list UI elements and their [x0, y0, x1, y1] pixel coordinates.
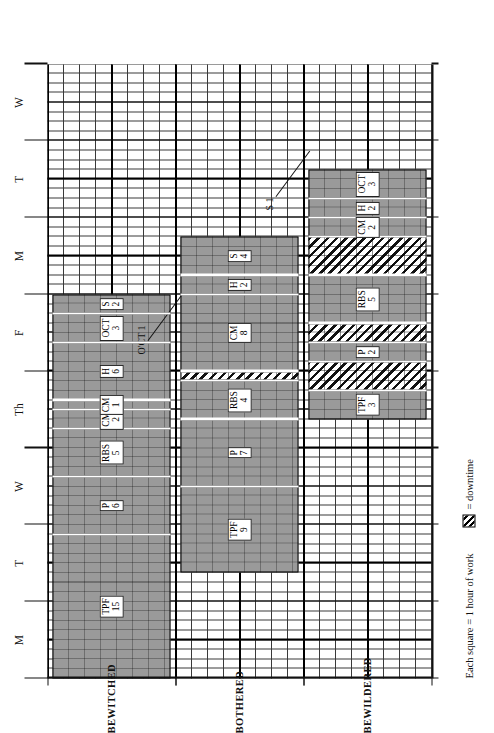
y-tick [47, 678, 48, 685]
legend: Each square = 1 hour of work = downtime [462, 459, 475, 678]
legend-square-text: Each square = 1 hour of work [463, 553, 474, 678]
task-code: P [101, 503, 111, 508]
task-separator [180, 369, 298, 371]
task-code: CM [101, 397, 111, 412]
task-separator [180, 417, 298, 419]
task-code: H [357, 204, 367, 211]
y-tick [303, 678, 304, 685]
task-label-chip: CM8 [227, 322, 251, 343]
load-chart: TPF15P6RBS5CM2CM1H6OCT3S2TPF9P7RBS4CM8H2… [0, 0, 494, 733]
task-label-chip: S2 [99, 298, 123, 309]
task-hours: 2 [239, 281, 249, 288]
task-label-chip: TPF3 [355, 393, 379, 415]
day-divider [24, 600, 47, 601]
x-tick [431, 370, 438, 371]
task-separator [52, 312, 170, 314]
y-tick [431, 678, 432, 685]
task-code: S [229, 253, 239, 258]
task-separator [52, 475, 170, 477]
day-divider [24, 523, 47, 524]
task-separator [308, 360, 426, 362]
day-divider [24, 139, 47, 140]
x-tick [431, 600, 438, 601]
row-label-bothered: BOTHERED [234, 681, 245, 733]
legend-downtime-text: = downtime [463, 459, 474, 510]
task-separator [308, 321, 426, 323]
task-separator [52, 341, 170, 343]
day-divider [24, 370, 47, 371]
task-separator [180, 273, 298, 275]
task-label-chip: RBS4 [227, 388, 251, 412]
task-code: RBS [101, 443, 111, 461]
task-label-chip: CM2 [355, 216, 379, 237]
downtime-block [308, 236, 426, 274]
task-code: P [229, 450, 239, 455]
task-code: TPF [229, 521, 239, 537]
task-hours: 3 [367, 174, 377, 193]
day-divider [24, 677, 47, 678]
task-label-chip: TPF15 [99, 595, 123, 617]
x-tick [431, 293, 438, 294]
day-label: W [12, 481, 24, 492]
task-code: S [101, 301, 111, 306]
task-label-chip: OCT3 [99, 315, 123, 340]
x-tick [431, 446, 438, 447]
task-separator [308, 273, 426, 275]
task-label-chip: P2 [355, 346, 379, 357]
task-hours: 3 [367, 396, 377, 412]
x-tick [431, 139, 438, 140]
hatch-swatch-icon [462, 514, 475, 527]
annotation-label: O'CT 1 [135, 325, 146, 354]
row-label-bewitched: BEWITCHED [106, 681, 117, 733]
task-separator [180, 485, 298, 487]
task-code: OCT [357, 174, 367, 193]
task-hours: 1 [111, 397, 121, 412]
task-label-chip: P7 [227, 447, 251, 458]
legend-downtime: = downtime [462, 459, 475, 528]
task-label-chip: TPF9 [227, 518, 251, 540]
task-label-chip: H2 [227, 278, 251, 291]
annotation-label: S 1 [263, 197, 274, 210]
task-hours: 5 [367, 290, 377, 308]
legend-square-note: Each square = 1 hour of work [463, 553, 474, 678]
plot-area: TPF15P6RBS5CM2CM1H6OCT3S2TPF9P7RBS4CM8H2… [47, 64, 431, 678]
task-label-chip: RBS5 [99, 440, 123, 464]
task-code: H [101, 367, 111, 374]
task-hours: 8 [239, 325, 249, 340]
downtime-block [308, 323, 426, 342]
task-hours: 6 [111, 503, 121, 508]
task-separator [308, 389, 426, 391]
task-hours: 15 [111, 598, 121, 614]
day-label: T [12, 175, 24, 182]
x-tick [431, 62, 438, 63]
task-code: OCT [101, 318, 111, 337]
task-hours: 5 [111, 443, 121, 461]
x-tick [431, 523, 438, 524]
task-separator [180, 379, 298, 381]
rotated-chart-wrapper: TPF15P6RBS5CM2CM1H6OCT3S2TPF9P7RBS4CM8H2… [0, 0, 494, 733]
task-hours: 2 [111, 301, 121, 306]
task-label-chip: OCT3 [355, 171, 379, 196]
day-divider [24, 62, 47, 63]
day-label: M [12, 634, 24, 644]
row-label-bewildered: BEWILDERED [362, 681, 373, 733]
task-hours: 2 [367, 204, 377, 211]
task-code: RBS [357, 290, 367, 308]
task-label-chip: S4 [227, 250, 251, 261]
day-label: W [12, 97, 24, 108]
day-divider [24, 446, 47, 447]
task-code: TPF [101, 598, 111, 614]
task-separator [52, 533, 170, 535]
task-label-chip: CM1 [99, 394, 123, 415]
task-code: RBS [229, 391, 239, 409]
task-code: CM [357, 219, 367, 234]
day-label: F [12, 329, 24, 335]
task-hours: 4 [239, 391, 249, 409]
task-label-chip: RBS5 [355, 287, 379, 311]
task-hours: 6 [111, 367, 121, 374]
task-code: P [357, 349, 367, 354]
day-divider [24, 216, 47, 217]
task-label-chip: H6 [99, 364, 123, 377]
downtime-block [308, 361, 426, 390]
task-hours: 2 [367, 219, 377, 234]
